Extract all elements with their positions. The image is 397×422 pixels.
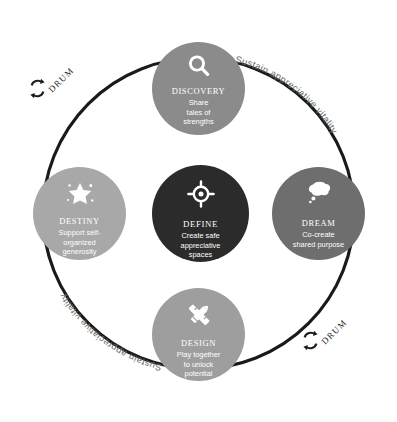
target-crosshair-icon (187, 180, 215, 208)
node-design[interactable]: DESIGN Play together to unlock potential (152, 288, 245, 381)
diagram-canvas: Sustain appreciative vitality Sustain ap… (0, 0, 397, 422)
node-define-title: DEFINE (183, 219, 218, 229)
desc-line: Play together (177, 350, 221, 360)
node-discovery-title: DISCOVERY (172, 86, 226, 96)
desc-line: Share (183, 98, 213, 108)
thought-bubble-icon (304, 180, 334, 206)
node-define[interactable]: DEFINE Create safe appreciative spaces (152, 165, 249, 262)
node-discovery-description: Share tales of strengths (183, 98, 213, 127)
node-dream[interactable]: DREAM Co-create shared purpose (272, 167, 365, 260)
desc-line: Support self- (59, 228, 101, 238)
node-destiny[interactable]: DESTINY Support self- organized generosi… (33, 167, 126, 260)
cycle-marker-top-left[interactable]: DRUM (27, 78, 81, 103)
node-destiny-title: DESTINY (59, 216, 100, 226)
recycle-cycle-arrows-icon (300, 330, 321, 355)
desc-line: shared purpose (293, 240, 344, 250)
desc-line: organized (59, 238, 101, 248)
desc-line: strengths (183, 117, 213, 127)
cycle-marker-bottom-right[interactable]: DRUM (300, 330, 354, 355)
node-discovery[interactable]: DISCOVERY Share tales of strengths (152, 42, 245, 135)
pencil-ruler-icon (185, 301, 213, 329)
desc-line: potential (177, 369, 221, 379)
node-design-title: DESIGN (181, 338, 216, 348)
node-design-description: Play together to unlock potential (177, 350, 221, 379)
node-dream-title: DREAM (302, 218, 336, 228)
desc-line: appreciative (181, 241, 221, 251)
arc-label-top-right: Sustain appreciative vitality (234, 54, 340, 136)
recycle-cycle-arrows-icon (27, 78, 48, 103)
node-destiny-description: Support self- organized generosity (59, 228, 101, 257)
desc-line: generosity (59, 247, 101, 257)
node-dream-description: Co-create shared purpose (293, 230, 344, 249)
desc-line: spaces (181, 250, 221, 260)
desc-line: tales of (183, 108, 213, 118)
desc-line: Co-create (293, 230, 344, 240)
star-sparkle-icon (65, 180, 95, 207)
desc-line: Create safe (181, 231, 221, 241)
arc-label-bottom-left: Sustain appreciative vitality (57, 292, 163, 374)
node-define-description: Create safe appreciative spaces (181, 231, 221, 260)
magnifying-glass-icon (186, 53, 212, 79)
desc-line: to unlock (177, 360, 221, 370)
